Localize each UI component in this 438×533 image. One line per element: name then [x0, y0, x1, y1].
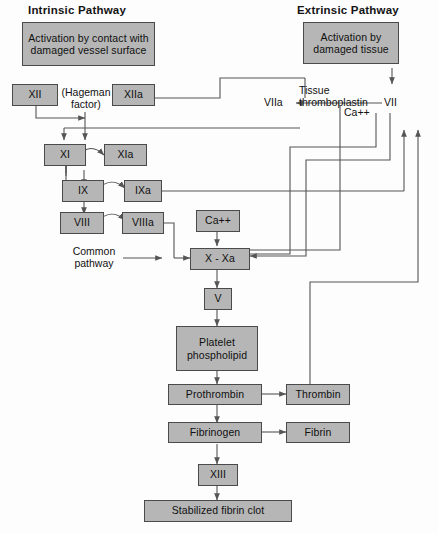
node-factor-xi: XI — [44, 144, 86, 166]
node-platelet-phospholipid: Platelet phospholipid — [176, 326, 258, 371]
wire-viia-to-x — [250, 113, 390, 256]
node-calcium: Ca++ — [196, 210, 240, 232]
node-factor-viiia: VIIIa — [122, 212, 164, 234]
node-factor-ix: IX — [62, 180, 104, 202]
node-factor-xiia: XIIa — [112, 84, 155, 106]
hageman-factor-label: (Hageman factor) — [58, 86, 114, 110]
node-x-xa: X - Xa — [190, 248, 250, 270]
factor-vii-label: VII — [384, 96, 408, 108]
extrinsic-activation-banner: Activation by damaged tissue — [303, 22, 399, 64]
intrinsic-activation-banner: Activation by contact with damaged vesse… — [22, 22, 155, 66]
tissue-thromboplastin-label: Tissue thromboplastin — [299, 84, 395, 108]
factor-viia-label: VIIa — [264, 96, 298, 108]
node-factor-xii: XII — [12, 84, 58, 106]
wire-thrombin-feedback — [310, 130, 418, 385]
node-fibrinogen: Fibrinogen — [168, 422, 262, 443]
node-stabilized-fibrin-clot: Stabilized fibrin clot — [144, 500, 292, 522]
node-fibrin: Fibrin — [286, 422, 350, 443]
node-factor-xia: XIa — [104, 144, 147, 166]
node-factor-ixa: IXa — [124, 180, 162, 202]
coagulation-cascade-diagram: Intrinsic Pathway Extrinsic Pathway Acti… — [0, 0, 438, 533]
intrinsic-pathway-header: Intrinsic Pathway — [28, 4, 126, 16]
extrinsic-pathway-header: Extrinsic Pathway — [297, 4, 399, 16]
calcium-extrinsic-label: Ca++ — [344, 106, 384, 118]
node-thrombin: Thrombin — [286, 384, 350, 405]
wire-ca-extrinsic — [250, 106, 340, 250]
common-pathway-label: Common pathway — [63, 245, 125, 269]
wire-extrinsic-to-x — [250, 113, 376, 254]
node-factor-xiii: XIII — [198, 464, 238, 486]
node-prothrombin: Prothrombin — [168, 384, 262, 405]
wire-xiia-up — [155, 78, 305, 98]
node-factor-v: V — [204, 288, 232, 310]
node-factor-viii: VIII — [60, 212, 104, 234]
